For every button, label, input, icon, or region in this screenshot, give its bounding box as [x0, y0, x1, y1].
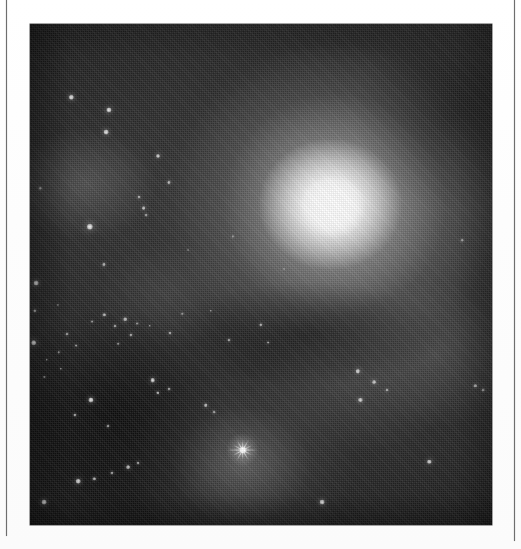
astronomical-plate-figure	[30, 24, 492, 525]
dust-lane-layer	[30, 24, 492, 525]
column-rule-right	[514, 0, 515, 541]
column-rule-left	[6, 0, 7, 536]
